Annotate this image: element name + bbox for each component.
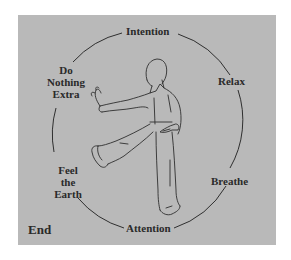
- figure-drawing: [91, 59, 181, 215]
- label-attention: Attention: [126, 222, 171, 234]
- label-earth: Earth: [52, 188, 84, 200]
- label-breathe: Breathe: [211, 175, 248, 187]
- cycle-diagram: [0, 0, 291, 260]
- label-intention: Intention: [126, 25, 169, 37]
- end-label: End: [28, 222, 51, 238]
- label-feel-the-earth: Feel the Earth: [52, 164, 84, 200]
- label-feel: Feel: [52, 164, 84, 176]
- label-extra: Extra: [44, 88, 88, 100]
- label-the: the: [52, 176, 84, 188]
- label-do-nothing-extra: Do Nothing Extra: [44, 64, 88, 100]
- label-do: Do: [44, 64, 88, 76]
- label-nothing: Nothing: [44, 76, 88, 88]
- label-relax: Relax: [218, 75, 245, 87]
